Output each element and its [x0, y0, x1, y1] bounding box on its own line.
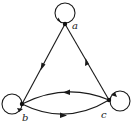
vertex-label-c: c	[101, 109, 107, 120]
arrowhead-icon	[63, 90, 70, 96]
edge-b-to-c-lower-arc	[22, 100, 109, 118]
vertex-c	[107, 98, 111, 102]
vertex-label-a: a	[72, 20, 78, 31]
vertex-label-b: b	[22, 112, 28, 123]
edge-c-to-b-upper-arc	[22, 90, 109, 105]
vertex-b	[20, 102, 24, 106]
arrowhead-icon	[111, 92, 117, 97]
arrowhead-icon	[60, 113, 67, 119]
arrowhead-icon	[41, 63, 46, 71]
edge-a-to-b	[22, 24, 65, 104]
vertex-a	[63, 22, 67, 26]
loop-edge-c	[110, 91, 130, 111]
arrowhead-icon	[58, 18, 62, 24]
edge-c-to-a	[65, 24, 109, 100]
directed-graph-diagram: a b c	[0, 0, 132, 128]
